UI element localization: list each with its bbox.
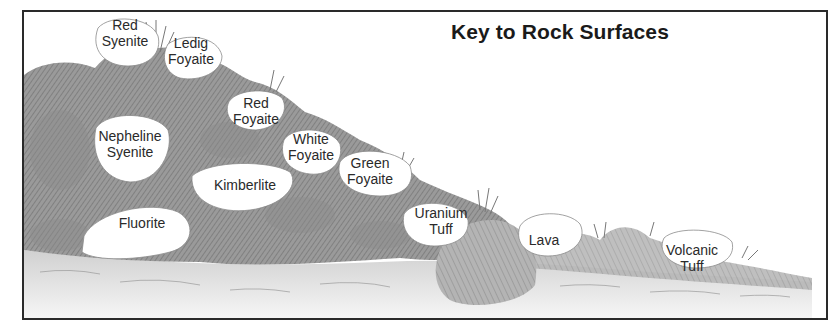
label-line: Nepheline bbox=[98, 128, 161, 144]
label-volcanic-tuff: Volcanic Tuff bbox=[666, 242, 718, 274]
label-nepheline-syenite: Nepheline Syenite bbox=[98, 128, 161, 160]
label-white-foyaite: White Foyaite bbox=[288, 131, 334, 163]
label-line: White bbox=[288, 131, 334, 147]
label-line: Volcanic bbox=[666, 242, 718, 258]
label-line: Ledig bbox=[168, 35, 214, 51]
diagram-title: Key to Rock Surfaces bbox=[451, 20, 669, 44]
label-ledig-foyaite: Ledig Foyaite bbox=[168, 35, 214, 67]
label-line: Red bbox=[233, 95, 279, 111]
label-line: Syenite bbox=[98, 144, 161, 160]
label-lava: Lava bbox=[529, 232, 559, 248]
label-line: Tuff bbox=[415, 221, 468, 237]
label-red-syenite: Red Syenite bbox=[102, 17, 149, 49]
label-line: Green bbox=[347, 155, 393, 171]
label-line: Tuff bbox=[666, 258, 718, 274]
label-line: Syenite bbox=[102, 33, 149, 49]
label-kimberlite: Kimberlite bbox=[214, 177, 276, 193]
label-line: Foyaite bbox=[168, 51, 214, 67]
label-line: Lava bbox=[529, 232, 559, 248]
label-line: Kimberlite bbox=[214, 177, 276, 193]
label-line: Foyaite bbox=[347, 171, 393, 187]
label-uranium-tuff: Uranium Tuff bbox=[415, 205, 468, 237]
label-fluorite: Fluorite bbox=[119, 215, 166, 231]
label-line: Uranium bbox=[415, 205, 468, 221]
label-line: Red bbox=[102, 17, 149, 33]
label-green-foyaite: Green Foyaite bbox=[347, 155, 393, 187]
label-line: Fluorite bbox=[119, 215, 166, 231]
label-line: Foyaite bbox=[233, 111, 279, 127]
label-red-foyaite: Red Foyaite bbox=[233, 95, 279, 127]
label-line: Foyaite bbox=[288, 147, 334, 163]
